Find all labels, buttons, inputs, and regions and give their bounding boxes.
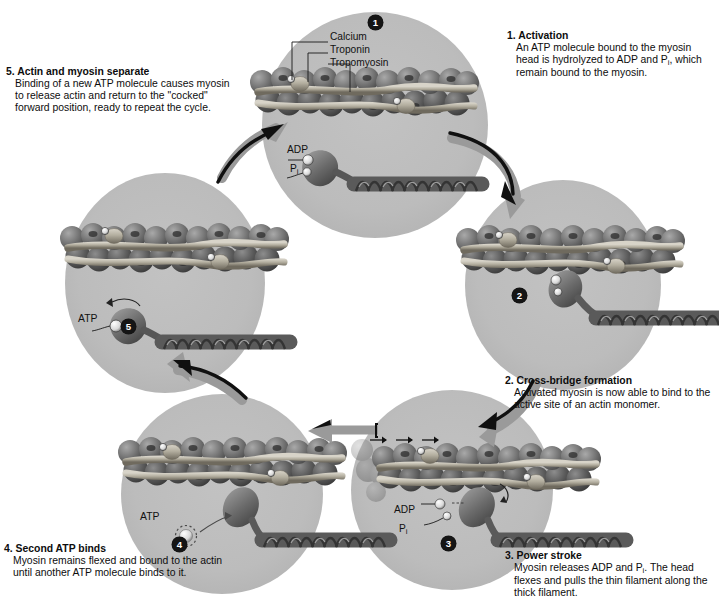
caption-step-2-heading: 2. Cross-bridge formation — [505, 375, 713, 387]
caption-step-5-heading: 5. Actin and myosin separate — [6, 66, 236, 78]
caption-step-3-body: Myosin releases ADP and Pi. The head fle… — [505, 562, 717, 599]
caption-step-3-heading: 3. Power stroke — [505, 550, 717, 562]
caption-step-2: 2. Cross-bridge formation Activated myos… — [505, 375, 713, 411]
label-panel4-atp: ATP — [140, 511, 159, 522]
caption-step-1-heading: 1. Activation — [507, 30, 712, 42]
label-panel1-adp: ADP — [287, 144, 308, 155]
caption-step-1-body: An ATP molecule bound to the myosin head… — [507, 42, 712, 79]
caption-step-4: 4. Second ATP binds Myosin remains flexe… — [4, 543, 229, 579]
panel-1-badge: 1 — [368, 15, 383, 30]
label-calcium: Calcium — [330, 31, 367, 42]
caption-step-4-body: Myosin remains flexed and bound to the a… — [4, 555, 229, 579]
label-panel3-pi: Pi — [399, 523, 407, 534]
panel-2-badge: 2 — [512, 288, 527, 303]
label-panel5-atp: ATP — [78, 313, 97, 324]
label-panel3-adp: ADP — [394, 504, 415, 515]
diagram-canvas: 1 2 3 4 5 Calcium Troponin Tropomyosin A… — [0, 0, 719, 614]
caption-step-1: 1. Activation An ATP molecule bound to t… — [507, 30, 712, 79]
panel-5-badge: 5 — [121, 319, 136, 334]
label-tropomyosin: Tropomyosin — [330, 57, 389, 68]
label-troponin: Troponin — [330, 44, 370, 55]
caption-step-5: 5. Actin and myosin separate Binding of … — [6, 66, 236, 114]
panel-5-disc — [65, 173, 265, 393]
panel-3-badge: 3 — [441, 536, 456, 551]
caption-step-2-body: Activated myosin is now able to bind to … — [505, 387, 713, 411]
caption-step-5-body: Binding of a new ATP molecule causes myo… — [6, 78, 236, 114]
caption-step-4-heading: 4. Second ATP binds — [4, 543, 229, 555]
caption-step-3: 3. Power stroke Myosin releases ADP and … — [505, 550, 717, 599]
panel-1-disc — [262, 12, 488, 238]
label-panel1-pi: Pi — [290, 163, 298, 174]
